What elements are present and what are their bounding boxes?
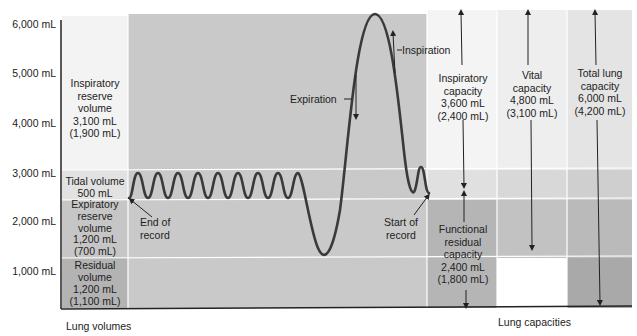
rv-label: Residualvolume1,200 mL(1,100 mL): [62, 259, 128, 307]
end-of-record-label: End ofrecord: [140, 216, 200, 241]
end-of-record-arrow: [131, 200, 152, 217]
expiration-label: Expiration: [290, 93, 345, 106]
ic-arrow-down: [463, 120, 464, 186]
lung-volumes-caption: Lung volumes: [66, 320, 131, 332]
tlc-label: Total lungcapacity6,000 mL(4,200 mL): [566, 67, 634, 117]
tlc-arrow-up: [595, 12, 596, 65]
vc-label: Vitalcapacity4,800 mL(3,100 mL): [497, 69, 567, 119]
start-of-record-label: Start ofrecord: [376, 216, 426, 241]
erv-label: Expiratoryreservevolume1,200 mL(700 mL): [62, 199, 128, 258]
inspiration-label: Inspiration: [402, 44, 462, 57]
grid-lines: [62, 10, 632, 308]
ic-arrow-up: [461, 12, 462, 65]
irv-label: Inspiratoryreservevolume3,100 mL(1,900 m…: [62, 77, 128, 140]
vc-arrow-down: [531, 120, 532, 248]
x-axis-line: [61, 306, 632, 309]
tlc-arrow-down: [597, 120, 600, 303]
ic-label: Inspiratorycapacity3,600 mL(2,400 mL): [428, 72, 498, 122]
lung-capacities-caption: Lung capacities: [498, 316, 571, 328]
tv-label: Tidal volume500 mL: [62, 175, 128, 199]
frc-label: Functionalresidualcapacity2,400 mL(1,800…: [427, 223, 499, 286]
